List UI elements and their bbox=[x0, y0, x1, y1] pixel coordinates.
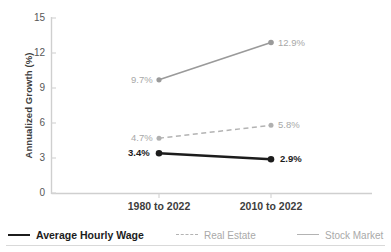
data-label-stock-2010: 12.9% bbox=[278, 38, 305, 48]
footer-divider bbox=[6, 245, 385, 246]
series-line-average-hourly-wage bbox=[159, 153, 271, 159]
data-label-realestate-2010: 5.8% bbox=[278, 120, 300, 130]
legend-label-average-hourly-wage: Average Hourly Wage bbox=[36, 229, 144, 241]
data-point-real-estate-1980 bbox=[157, 136, 162, 141]
data-label-stock-1980: 9.7% bbox=[131, 75, 153, 85]
data-label-wage-1980: 3.4% bbox=[128, 148, 150, 158]
legend-swatch-solid-dark-icon bbox=[8, 230, 30, 240]
data-label-wage-2010: 2.9% bbox=[280, 154, 302, 164]
legend-label-stock-market: Stock Market bbox=[325, 230, 383, 241]
data-label-realestate-1980: 4.7% bbox=[131, 133, 153, 143]
data-point-wage-1980 bbox=[156, 150, 163, 157]
data-point-wage-2010 bbox=[268, 156, 275, 163]
data-point-stock-market-1980 bbox=[156, 77, 161, 82]
series-line-stock-market bbox=[159, 43, 271, 80]
legend-item-real-estate[interactable]: Real Estate bbox=[176, 226, 256, 244]
legend: Average Hourly Wage Real Estate Stock Ma… bbox=[0, 226, 391, 246]
legend-item-average-hourly-wage[interactable]: Average Hourly Wage bbox=[8, 226, 144, 244]
data-point-stock-market-2010 bbox=[268, 40, 274, 46]
series-line-real-estate bbox=[159, 125, 271, 138]
x-tick-label-1980-to-2022: 1980 to 2022 bbox=[109, 201, 209, 212]
x-tick-label-2010-to-2022: 2010 to 2022 bbox=[221, 201, 321, 212]
legend-swatch-solid-gray-icon bbox=[297, 230, 319, 240]
legend-label-real-estate: Real Estate bbox=[204, 230, 256, 241]
data-point-real-estate-2010 bbox=[269, 123, 274, 128]
legend-item-stock-market[interactable]: Stock Market bbox=[297, 226, 383, 244]
plot-area bbox=[0, 0, 391, 252]
legend-swatch-dashed-gray-icon bbox=[176, 230, 198, 240]
chart-container: Annualized Growth (%) 15 12 9 6 3 0 bbox=[0, 0, 391, 252]
